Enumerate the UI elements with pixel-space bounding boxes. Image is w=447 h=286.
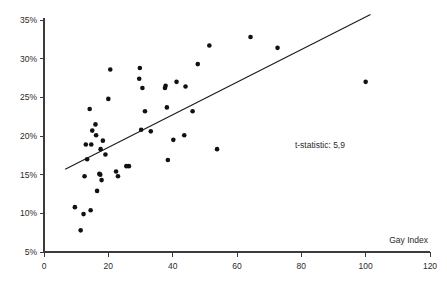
- y-tick-label: 10%: [20, 208, 37, 218]
- x-tick-label: 120: [423, 261, 437, 271]
- data-point: [78, 228, 83, 233]
- x-tick-label: 0: [42, 261, 47, 271]
- data-point: [85, 157, 90, 162]
- data-point: [182, 133, 187, 138]
- data-point: [183, 84, 188, 89]
- x-tick-label: 60: [232, 261, 242, 271]
- data-point: [166, 158, 171, 163]
- data-point: [82, 174, 87, 179]
- data-point: [190, 109, 195, 114]
- y-tick-label: 30%: [20, 54, 37, 64]
- data-point: [103, 152, 108, 157]
- scatter-chart: 5%10%15%20%25%30%35%020406080100120Gay I…: [0, 0, 447, 286]
- data-point: [137, 76, 142, 81]
- data-point: [93, 122, 98, 127]
- data-point: [81, 212, 86, 217]
- data-point: [139, 128, 144, 133]
- x-tick-label: 40: [168, 261, 178, 271]
- x-tick-label: 100: [359, 261, 373, 271]
- data-point: [94, 133, 99, 138]
- t-statistic-annotation: t-statistic: 5,9: [295, 140, 345, 150]
- plot-area: 5%10%15%20%25%30%35%020406080100120Gay I…: [0, 0, 447, 286]
- data-point: [84, 142, 89, 147]
- data-point: [95, 189, 100, 194]
- data-point: [363, 80, 368, 85]
- data-point: [127, 164, 132, 169]
- data-point: [248, 35, 253, 40]
- data-point: [89, 142, 94, 147]
- data-point: [148, 129, 153, 134]
- data-point: [73, 205, 78, 210]
- data-point: [88, 208, 93, 213]
- data-point: [116, 174, 121, 179]
- data-point: [215, 147, 220, 152]
- data-point: [114, 169, 119, 174]
- y-tick-label: 5%: [25, 247, 38, 257]
- data-point: [108, 67, 113, 72]
- x-tick-label: 80: [297, 261, 307, 271]
- x-tick-label: 20: [104, 261, 114, 271]
- data-point: [101, 138, 106, 143]
- data-point: [87, 107, 92, 112]
- data-point: [98, 147, 103, 152]
- data-point: [90, 128, 95, 133]
- data-point: [98, 172, 103, 177]
- data-point: [174, 80, 179, 85]
- y-tick-label: 15%: [20, 170, 37, 180]
- data-point: [195, 62, 200, 67]
- data-point: [165, 105, 170, 110]
- y-tick-label: 25%: [20, 92, 37, 102]
- y-tick-label: 20%: [20, 131, 37, 141]
- data-point: [171, 138, 176, 143]
- data-point: [138, 66, 143, 71]
- x-axis-title: Gay Index: [389, 235, 428, 245]
- data-point: [106, 97, 111, 102]
- data-point: [99, 178, 104, 183]
- data-point: [207, 43, 212, 48]
- y-tick-label: 35%: [20, 15, 37, 25]
- data-point: [275, 46, 280, 51]
- data-point: [163, 83, 168, 88]
- data-point: [143, 109, 148, 114]
- data-point: [140, 86, 145, 91]
